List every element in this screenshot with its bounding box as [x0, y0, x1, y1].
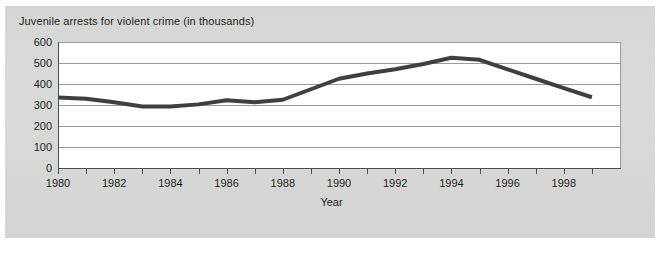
- x-tick-1991: [367, 169, 368, 174]
- chart-figure: Juvenile arrests for violent crime (in t…: [0, 0, 663, 258]
- x-tick-label-1988: 1988: [271, 177, 295, 189]
- x-tick-1981: [86, 169, 87, 174]
- x-tick-label-1994: 1994: [439, 177, 463, 189]
- x-tick-1986: [227, 169, 228, 174]
- x-tick-1997: [536, 169, 537, 174]
- x-tick-1994: [451, 169, 452, 174]
- x-tick-1984: [170, 169, 171, 174]
- x-tick-1989: [311, 169, 312, 174]
- y-tick-label-300: 300: [8, 99, 52, 111]
- x-tick-label-1996: 1996: [495, 177, 519, 189]
- x-tick-1980: [58, 169, 59, 174]
- y-tick-label-500: 500: [8, 57, 52, 69]
- x-tick-1992: [395, 169, 396, 174]
- x-tick-label-1982: 1982: [102, 177, 126, 189]
- x-tick-label-1980: 1980: [46, 177, 70, 189]
- x-tick-1990: [339, 169, 340, 174]
- y-tick-label-0: 0: [8, 162, 52, 174]
- series-line-juvenile-arrests: [58, 42, 621, 169]
- x-axis-title: Year: [0, 196, 663, 208]
- y-tick-label-400: 400: [8, 78, 52, 90]
- x-tick-1995: [480, 169, 481, 174]
- chart-title: Juvenile arrests for violent crime (in t…: [19, 15, 254, 27]
- x-tick-label-1998: 1998: [552, 177, 576, 189]
- x-tick-1982: [114, 169, 115, 174]
- y-tick-label-600: 600: [8, 36, 52, 48]
- x-tick-1985: [199, 169, 200, 174]
- x-tick-1988: [283, 169, 284, 174]
- x-tick-label-1992: 1992: [383, 177, 407, 189]
- x-tick-1999: [592, 169, 593, 174]
- x-tick-1993: [423, 169, 424, 174]
- x-tick-label-1984: 1984: [158, 177, 182, 189]
- y-tick-label-200: 200: [8, 120, 52, 132]
- x-tick-1996: [508, 169, 509, 174]
- x-tick-label-1990: 1990: [327, 177, 351, 189]
- x-tick-1987: [255, 169, 256, 174]
- x-tick-1983: [142, 169, 143, 174]
- x-tick-label-1986: 1986: [214, 177, 238, 189]
- y-tick-label-100: 100: [8, 141, 52, 153]
- x-tick-1998: [564, 169, 565, 174]
